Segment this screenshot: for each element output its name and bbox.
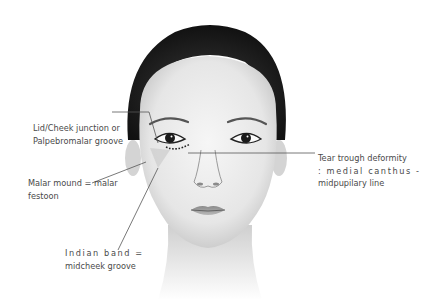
annotation-line: midcheek groove xyxy=(65,260,144,273)
leader-indian-band xyxy=(118,168,158,250)
annotation-tear-trough: Tear trough deformity : medial canthus -… xyxy=(318,152,421,190)
annotation-line: Tear trough deformity xyxy=(318,152,421,165)
left-ear xyxy=(125,140,141,176)
annotation-line: Palpebromalar groove xyxy=(33,135,123,148)
face-illustration xyxy=(0,0,423,301)
annotation-lid-cheek: Lid/Cheek junction or Palpebromalar groo… xyxy=(33,122,123,147)
annotation-line: Lid/Cheek junction or xyxy=(33,122,123,135)
annotation-line: Indian band = xyxy=(65,247,144,260)
annotation-line: : medial canthus - xyxy=(318,165,421,178)
annotation-line: festoon xyxy=(28,190,118,203)
annotation-indian-band: Indian band = midcheek groove xyxy=(65,247,144,272)
annotation-line: midpupilary line xyxy=(318,177,421,190)
annotation-line: Malar mound = malar xyxy=(28,177,118,190)
annotation-malar-mound: Malar mound = malar festoon xyxy=(28,177,118,202)
